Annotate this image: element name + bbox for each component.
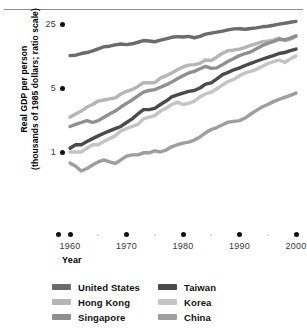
x-axis-tick-dot	[237, 232, 242, 237]
x-axis-minor-tick-dot	[210, 234, 212, 236]
x-axis-origin-dot	[56, 232, 61, 237]
series-line-korea	[70, 56, 296, 152]
legend-swatch	[52, 299, 71, 305]
legend-item-hong-kong[interactable]: Hong Kong	[52, 296, 140, 308]
x-axis-tick-label: 1990	[229, 241, 250, 251]
series-line-united-states	[70, 21, 296, 55]
plot-area	[0, 0, 307, 230]
legend-column-left: United StatesHong KongSingapore	[52, 281, 140, 323]
legend-item-taiwan[interactable]: Taiwan	[158, 281, 216, 293]
x-axis-tick-label: 2000	[286, 241, 307, 251]
legend-item-united-states[interactable]: United States	[52, 281, 140, 293]
x-axis-tick-dot	[294, 232, 299, 237]
legend-swatch	[158, 314, 177, 320]
legend-swatch	[158, 284, 177, 290]
legend-item-korea[interactable]: Korea	[158, 296, 216, 308]
series-line-singapore	[70, 36, 296, 127]
legend-swatch	[52, 284, 71, 290]
x-axis-tick-label: 1960	[60, 241, 81, 251]
chart-figure: Real GDP per person (thousands of 1985 d…	[0, 0, 307, 330]
legend-swatch	[52, 314, 71, 320]
legend-label: Korea	[184, 297, 211, 308]
x-axis-title: Year	[62, 255, 82, 265]
legend-label: Singapore	[78, 312, 125, 323]
x-axis-tick-label: 1970	[116, 241, 137, 251]
chart-legend: United StatesHong KongSingapore TaiwanKo…	[52, 281, 302, 323]
legend-swatch	[158, 299, 177, 305]
legend-item-singapore[interactable]: Singapore	[52, 311, 140, 323]
x-axis-tick-dot	[124, 232, 129, 237]
x-axis-tick-dot	[68, 232, 73, 237]
legend-item-china[interactable]: China	[158, 311, 216, 323]
legend-label: Hong Kong	[78, 297, 130, 308]
x-axis-minor-tick-dot	[97, 234, 99, 236]
legend-label: United States	[78, 282, 140, 293]
legend-label: China	[184, 312, 211, 323]
x-axis-minor-tick-dot	[267, 234, 269, 236]
legend-label: Taiwan	[184, 282, 216, 293]
x-axis-minor-tick-dot	[154, 234, 156, 236]
legend-column-right: TaiwanKoreaChina	[158, 281, 216, 323]
x-axis-tick-label: 1980	[173, 241, 194, 251]
x-axis-tick-dot	[181, 232, 186, 237]
